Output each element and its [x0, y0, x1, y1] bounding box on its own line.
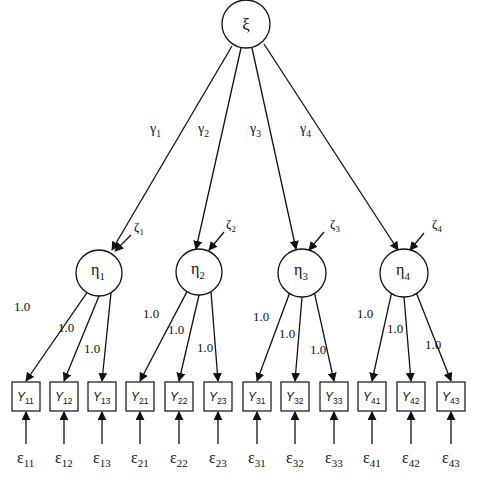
error-label-42: ε42	[402, 449, 420, 469]
error-label-32: ε32	[286, 449, 304, 469]
gamma-path-2	[196, 48, 241, 249]
zeta-path-2	[209, 232, 224, 250]
loading-path-41	[372, 293, 391, 381]
loading-path-11	[26, 293, 87, 381]
gamma-label-1: γ1	[149, 121, 161, 139]
error-label-13: ε13	[93, 449, 111, 469]
gamma-path-1	[112, 46, 232, 250]
zeta-label-1: ζ1	[134, 219, 144, 237]
zeta-label-4: ζ4	[432, 216, 442, 234]
error-label-33: ε33	[325, 449, 343, 469]
loading-label-23: 1.0	[197, 340, 213, 355]
loading-label-13: 1.0	[84, 341, 100, 356]
gamma-label-4: γ4	[299, 121, 311, 139]
gamma-label-2: γ2	[197, 121, 209, 139]
loading-label-22: 1.0	[168, 322, 184, 337]
loading-label-31: 1.0	[253, 309, 269, 324]
loading-label-43: 1.0	[425, 337, 441, 352]
error-label-11: ε11	[17, 449, 34, 469]
loading-label-41: 1.0	[357, 306, 373, 321]
loading-path-32	[295, 297, 302, 381]
loading-path-42	[404, 297, 411, 381]
error-label-31: ε31	[248, 449, 266, 469]
error-label-23: ε23	[209, 449, 227, 469]
loading-path-23	[211, 292, 218, 381]
gamma-path-3	[252, 48, 296, 249]
error-label-12: ε12	[55, 449, 73, 469]
zeta-label-3: ζ3	[330, 216, 340, 234]
loading-path-12	[64, 296, 99, 381]
sem-diagram: ξγ1ζ1η11.0Y11ε111.0Y12ε121.0Y13ε13γ2ζ2η2…	[0, 0, 479, 478]
error-label-21: ε21	[131, 449, 149, 469]
error-label-22: ε22	[170, 449, 188, 469]
zeta-label-2: ζ2	[226, 216, 236, 234]
zeta-path-4	[410, 233, 424, 250]
error-label-41: ε41	[363, 449, 381, 469]
gamma-label-3: γ3	[249, 121, 261, 139]
zeta-path-1	[115, 235, 131, 251]
loading-label-42: 1.0	[387, 321, 403, 336]
loading-path-33	[315, 293, 334, 381]
zeta-path-3	[309, 232, 324, 250]
loading-path-13	[102, 293, 111, 381]
loading-label-11: 1.0	[14, 299, 30, 314]
loading-label-32: 1.0	[279, 326, 295, 341]
error-label-43: ε43	[442, 449, 460, 469]
loading-path-22	[179, 295, 199, 381]
loading-label-21: 1.0	[143, 306, 159, 321]
xi-label: ξ	[242, 15, 250, 34]
loading-label-12: 1.0	[58, 320, 74, 335]
loading-label-33: 1.0	[310, 342, 326, 357]
